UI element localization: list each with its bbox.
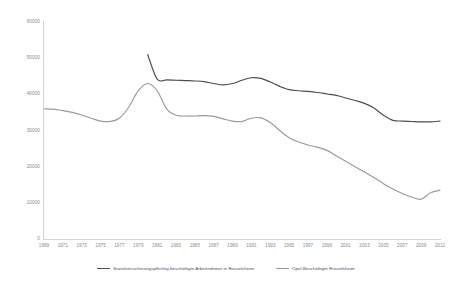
series-container xyxy=(0,0,452,287)
legend-swatch-icon xyxy=(97,268,110,269)
chart-legend: Sozialversicherungspflichtig beschäftigt… xyxy=(0,266,452,271)
legend-swatch-icon xyxy=(276,268,289,269)
legend-label: Sozialversicherungspflichtig beschäftigt… xyxy=(113,266,254,271)
series-line-1 xyxy=(148,55,440,122)
line-chart: 0100002000030000400005000060000 19691971… xyxy=(0,0,452,287)
legend-item-2[interactable]: Opel-Beschäftigte Rüsselsheim xyxy=(276,266,355,271)
series-line-2 xyxy=(44,83,440,199)
legend-label: Opel-Beschäftigte Rüsselsheim xyxy=(292,266,355,271)
legend-item-1[interactable]: Sozialversicherungspflichtig beschäftigt… xyxy=(97,266,254,271)
